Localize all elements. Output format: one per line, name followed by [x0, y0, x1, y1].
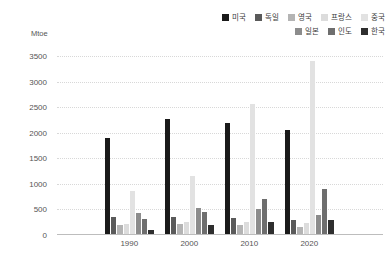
legend-swatch-icon — [361, 28, 368, 35]
legend-item[interactable]: 프랑스 — [321, 12, 352, 22]
x-axis-tick-label: 1990 — [99, 239, 159, 248]
y-axis-tick-label: 1000 — [7, 179, 47, 188]
legend-item[interactable]: 미국 — [222, 12, 246, 22]
legend-item-label: 미국 — [232, 13, 246, 22]
legend-swatch-icon — [222, 14, 229, 21]
x-axis-tick-label: 2020 — [279, 239, 339, 248]
bar — [165, 119, 170, 235]
bar — [190, 176, 195, 235]
bar — [262, 199, 267, 235]
bar — [291, 220, 296, 235]
legend-swatch-icon — [321, 14, 328, 21]
y-axis-tick-label: 0 — [7, 231, 47, 240]
legend-item-label: 인도 — [338, 27, 352, 36]
bar — [111, 217, 116, 235]
bar — [310, 61, 315, 235]
y-axis-tick-label: 500 — [7, 205, 47, 214]
y-axis-tick-label: 1500 — [7, 154, 47, 163]
legend-swatch-icon — [361, 14, 368, 21]
legend-swatch-icon — [328, 28, 335, 35]
chart-legend: 미국독일영국프랑스중국일본인도한국 — [205, 12, 385, 40]
legend-item-label: 독일 — [265, 13, 279, 22]
bar — [202, 212, 207, 235]
legend-item-label: 중국 — [371, 13, 385, 22]
bar — [328, 220, 333, 235]
gridline — [57, 56, 383, 57]
legend-item[interactable]: 중국 — [361, 12, 385, 22]
legend-swatch-icon — [295, 28, 302, 35]
x-axis-tick-label: 2000 — [159, 239, 219, 248]
legend-item[interactable]: 한국 — [361, 26, 385, 36]
gridline — [57, 107, 383, 108]
bar — [105, 138, 110, 235]
y-axis-tick-label: 2500 — [7, 103, 47, 112]
bar — [231, 218, 236, 235]
bar — [142, 219, 147, 235]
bar — [250, 104, 255, 235]
bar-chart: 미국독일영국프랑스중국일본인도한국 Mtoe 05001000150020002… — [0, 0, 390, 271]
bar — [196, 208, 201, 235]
legend-swatch-icon — [288, 14, 295, 21]
legend-item[interactable]: 영국 — [288, 12, 312, 22]
legend-item-label: 일본 — [305, 27, 319, 36]
legend-item-label: 프랑스 — [331, 13, 352, 22]
bar — [130, 191, 135, 235]
y-axis-tick-label: 3500 — [7, 52, 47, 61]
legend-item[interactable]: 인도 — [328, 26, 352, 36]
bar — [136, 213, 141, 236]
bar — [285, 130, 290, 235]
bar — [316, 215, 321, 235]
bar — [322, 189, 327, 235]
y-axis-tick-label: 3000 — [7, 77, 47, 86]
legend-swatch-icon — [255, 14, 262, 21]
bar — [225, 123, 230, 236]
gridline — [57, 133, 383, 134]
legend-item[interactable]: 일본 — [295, 26, 319, 36]
bar — [256, 209, 261, 235]
chart-data-summary — [0, 0, 1, 1]
bar — [171, 217, 176, 235]
x-axis-line — [57, 234, 383, 235]
x-axis-tick-label: 2010 — [219, 239, 279, 248]
legend-item-label: 영국 — [298, 13, 312, 22]
plot-area: 0500100015002000250030003500 19902000201… — [57, 56, 383, 235]
legend-item[interactable]: 독일 — [255, 12, 279, 22]
y-axis-unit-label: Mtoe — [31, 29, 48, 38]
y-axis-tick-label: 2000 — [7, 128, 47, 137]
gridline — [57, 82, 383, 83]
legend-item-label: 한국 — [371, 27, 385, 36]
